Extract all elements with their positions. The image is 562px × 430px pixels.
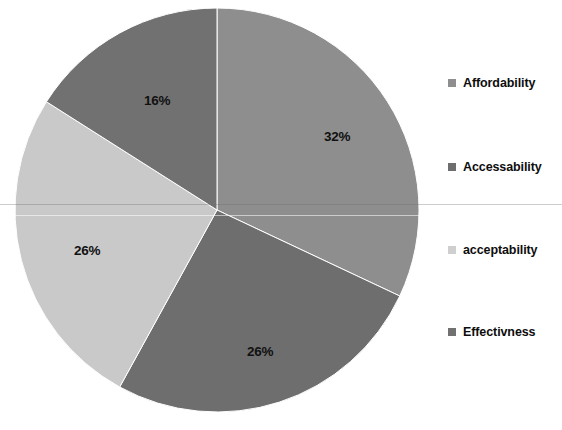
pie-chart-plot-area: 32%26%26%16%: [0, 0, 430, 430]
pie-slice-group: [15, 8, 419, 412]
legend-swatch-icon: [448, 328, 456, 336]
legend-item-label: acceptability: [463, 243, 537, 257]
legend-swatch-icon: [448, 246, 456, 254]
slice-value-label-affordability: 32%: [324, 129, 350, 144]
legend-swatch-icon: [448, 163, 456, 171]
slice-value-label-effectivness: 16%: [144, 93, 170, 108]
legend-swatch-icon: [448, 79, 456, 87]
pie-chart-svg: [0, 0, 430, 430]
legend-item-acceptability[interactable]: acceptability: [448, 243, 537, 257]
legend-item-affordability[interactable]: Affordability: [448, 76, 535, 90]
pie-chart-figure: 32%26%26%16% AffordabilityAccessabilitya…: [0, 0, 562, 430]
slice-value-label-accessability: 26%: [247, 344, 273, 359]
legend-item-accessability[interactable]: Accessability: [448, 160, 542, 174]
slice-value-label-acceptability: 26%: [74, 243, 100, 258]
chart-legend: AffordabilityAccessabilityacceptabilityE…: [448, 0, 562, 430]
legend-item-effectivness[interactable]: Effectivness: [448, 325, 535, 339]
legend-item-label: Affordability: [463, 76, 535, 90]
legend-item-label: Accessability: [463, 160, 542, 174]
legend-item-label: Effectivness: [463, 325, 535, 339]
